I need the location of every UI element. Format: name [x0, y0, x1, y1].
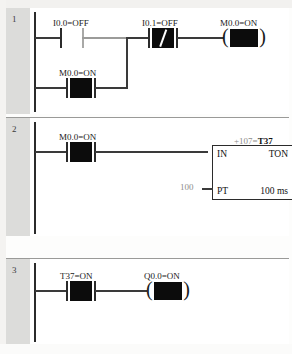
branch-contact-m00-label: M0.0=ON	[59, 68, 96, 78]
contact-m00-rung2-bar-left	[66, 142, 68, 162]
contact-t37-label: T37=ON	[60, 271, 93, 281]
rung-3[interactable]: 3 T37=ON Q0.0=ON ( )	[6, 259, 289, 344]
contact-i01-bar-left	[148, 28, 150, 48]
rung-2-gutter: 2	[6, 118, 30, 236]
contact-m00-rung2-label: M0.0=ON	[59, 132, 96, 142]
rung-1[interactable]: 1 I0.0=OFF I0.1=OFF M0.0=ON	[6, 8, 289, 114]
timer-t37-pt-stub	[202, 188, 213, 190]
contact-i00[interactable]	[60, 28, 84, 48]
rung-2[interactable]: 2 M0.0=ON +107=T37 IN TON PT 100 ms 100	[6, 118, 289, 236]
coil-m00-energized-fill	[230, 29, 258, 47]
coil-q00[interactable]: ( )	[146, 281, 190, 301]
contact-t37-bar-left	[66, 281, 68, 301]
rung-1-power-rail	[34, 12, 36, 112]
contact-t37-energized-fill	[70, 281, 92, 301]
coil-q00-paren-right: )	[183, 279, 190, 299]
timer-t37-preset-value: 100	[180, 182, 194, 192]
rung-2-wire-rail-to-contact-a	[35, 151, 67, 153]
coil-q00-paren-left: (	[146, 279, 153, 299]
rung-1-branch-wire-to-junction	[95, 87, 128, 89]
rung-1-branch-connector	[126, 37, 128, 89]
contact-t37[interactable]	[66, 281, 96, 301]
rung-1-wire-rail-to-contact-a	[35, 37, 60, 39]
rung-3-number: 3	[12, 265, 17, 275]
rung-1-gutter: 1	[6, 8, 30, 114]
coil-q00-energized-fill	[154, 282, 182, 300]
coil-m00-paren-right: )	[259, 26, 266, 46]
timer-t37-instruction-label: TON	[269, 149, 288, 159]
coil-m00[interactable]: ( )	[222, 28, 266, 48]
contact-i01-energized-fill	[152, 28, 174, 48]
page-edge-bottom	[0, 344, 292, 354]
rung-1-branch-wire-rail	[35, 87, 67, 89]
rung-3-power-rail	[34, 263, 36, 342]
rung-2-number: 2	[12, 124, 17, 134]
timer-t37-in-label: IN	[217, 149, 227, 159]
rung-3-wire-contact-to-coil	[95, 290, 147, 292]
timer-t37-timebase-label: 100 ms	[260, 186, 288, 196]
rung-3-wire-rail-to-contact	[35, 290, 67, 292]
coil-m00-paren-left: (	[222, 26, 229, 46]
rung-2-power-rail	[34, 122, 36, 234]
contact-i01-slash-icon	[159, 29, 167, 46]
contact-i00-label: I0.0=OFF	[53, 18, 89, 28]
rung-1-wire-contact-b-to-coil	[177, 37, 224, 39]
branch-contact-m00[interactable]	[66, 78, 96, 98]
contact-m00-rung2[interactable]	[66, 142, 96, 162]
contact-i00-bar-left	[60, 28, 62, 48]
rung-1-wire-junction-to-contact-b	[126, 37, 148, 39]
ladder-diagram-sheet: 1 I0.0=OFF I0.1=OFF M0.0=ON	[0, 0, 292, 354]
contact-m00-rung2-energized-fill	[70, 142, 92, 162]
timer-t37-pt-label: PT	[217, 186, 228, 196]
rung-1-wire-contact-a-to-junction	[82, 37, 128, 39]
branch-contact-m00-bar-left	[66, 78, 68, 98]
timer-t37-box[interactable]: IN TON PT 100 ms	[212, 145, 292, 200]
rung-3-gutter: 3	[6, 259, 30, 344]
contact-i01-label: I0.1=OFF	[142, 18, 178, 28]
contact-i01[interactable]	[148, 28, 178, 48]
page-edge-top	[0, 0, 292, 8]
branch-contact-m00-energized-fill	[70, 78, 92, 98]
rung-2-wire-contact-to-timer	[95, 151, 208, 153]
rung-1-number: 1	[12, 14, 17, 24]
